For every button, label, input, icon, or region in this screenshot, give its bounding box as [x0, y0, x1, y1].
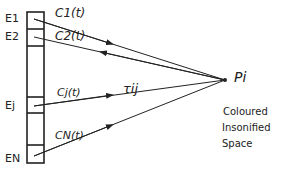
- emitter-array-diagram: E1 E2 Ej EN C1(t) C2(t) Cj(t) CN(t) τij …: [0, 0, 304, 172]
- emitter-label-e2: E2: [5, 30, 19, 43]
- signal-label-c1: C1(t): [55, 6, 85, 20]
- space-label-line1: Coloured: [223, 106, 268, 117]
- signal-label-c2: C2(t): [55, 29, 85, 43]
- emitter-label-ej: Ej: [5, 99, 15, 112]
- focal-point: [223, 78, 227, 82]
- delay-label: τij: [123, 81, 138, 96]
- emitter-label-en: EN: [5, 152, 20, 165]
- signal-label-cn: CN(t): [55, 129, 84, 142]
- point-label: Pi: [234, 69, 246, 85]
- space-label-line2: Insonified: [222, 122, 271, 133]
- emitter-label-e1: E1: [5, 12, 19, 25]
- ray-e2-arrow: [101, 52, 225, 80]
- emitter-column: [27, 12, 44, 163]
- signal-label-cj: Cj(t): [57, 86, 81, 99]
- space-label-line3: Space: [222, 138, 252, 149]
